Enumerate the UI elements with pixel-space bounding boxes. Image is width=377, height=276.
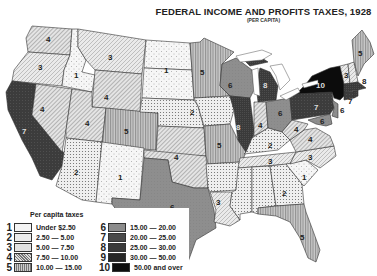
swatch-4 xyxy=(14,253,32,262)
state-montana[interactable] xyxy=(78,29,146,74)
label-wv: 4 xyxy=(294,125,299,134)
label-nc: 3 xyxy=(308,153,313,162)
label-mo: 5 xyxy=(217,141,222,150)
swatch-5 xyxy=(14,263,32,272)
legend: Per capita taxes 1 Under $2.50 2 2.50 — … xyxy=(4,208,189,274)
label-la: 3 xyxy=(216,198,221,207)
label-or: 3 xyxy=(38,63,43,72)
label-ne: 2 xyxy=(190,108,195,117)
label-ma: 8 xyxy=(362,77,367,86)
legend-item: 5 10.00 — 15.00 xyxy=(4,262,82,273)
label-ky: 2 xyxy=(268,141,273,150)
swatch-6 xyxy=(108,223,126,232)
lake-superior xyxy=(236,50,272,62)
label-md: 6 xyxy=(320,117,325,126)
label-nd: 1 xyxy=(164,66,169,75)
state-arkansas[interactable] xyxy=(206,162,240,192)
swatch-9 xyxy=(108,253,126,262)
legend-title: Per capita taxes xyxy=(30,211,83,218)
label-va: 4 xyxy=(308,135,313,144)
label-wy: 4 xyxy=(104,93,109,102)
swatch-7 xyxy=(108,233,126,242)
label-ny: 10 xyxy=(316,81,325,90)
label-co: 5 xyxy=(124,127,129,136)
label-wi: 6 xyxy=(228,81,233,90)
label-nm: 1 xyxy=(118,173,123,182)
label-ct: 7 xyxy=(348,97,353,106)
label-id: 1 xyxy=(74,71,79,80)
label-ks: 4 xyxy=(174,153,179,162)
legend-item: 10 50.00 and over xyxy=(98,262,183,273)
label-ut: 4 xyxy=(85,119,90,128)
label-pa: 7 xyxy=(314,103,319,112)
label-mi: 8 xyxy=(263,81,268,90)
state-florida[interactable] xyxy=(258,204,320,262)
label-tn: 3 xyxy=(268,157,273,166)
label-sc: 1 xyxy=(302,173,307,182)
swatch-10 xyxy=(112,263,130,272)
label-me: 5 xyxy=(358,49,363,58)
state-wyoming[interactable] xyxy=(92,70,142,112)
label-nj: 6 xyxy=(340,106,345,115)
swatch-8 xyxy=(108,243,126,252)
state-rhode-island[interactable] xyxy=(354,90,358,98)
label-il: 8 xyxy=(236,123,241,132)
state-kansas[interactable] xyxy=(156,126,206,156)
label-vt: 3 xyxy=(344,71,349,80)
swatch-1 xyxy=(14,223,32,232)
label-ga: 2 xyxy=(282,189,287,198)
label-oh: 6 xyxy=(278,109,283,118)
label-nv: 4 xyxy=(40,105,45,114)
swatch-3 xyxy=(14,243,32,252)
label-az: 2 xyxy=(74,168,79,177)
label-in: 4 xyxy=(258,121,263,130)
label-mt: 3 xyxy=(108,53,113,62)
swatch-2 xyxy=(14,233,32,242)
label-ca: 7 xyxy=(22,127,27,136)
label-wa: 4 xyxy=(46,35,51,44)
label-fl: 5 xyxy=(300,233,305,242)
label-mn: 5 xyxy=(200,68,205,77)
